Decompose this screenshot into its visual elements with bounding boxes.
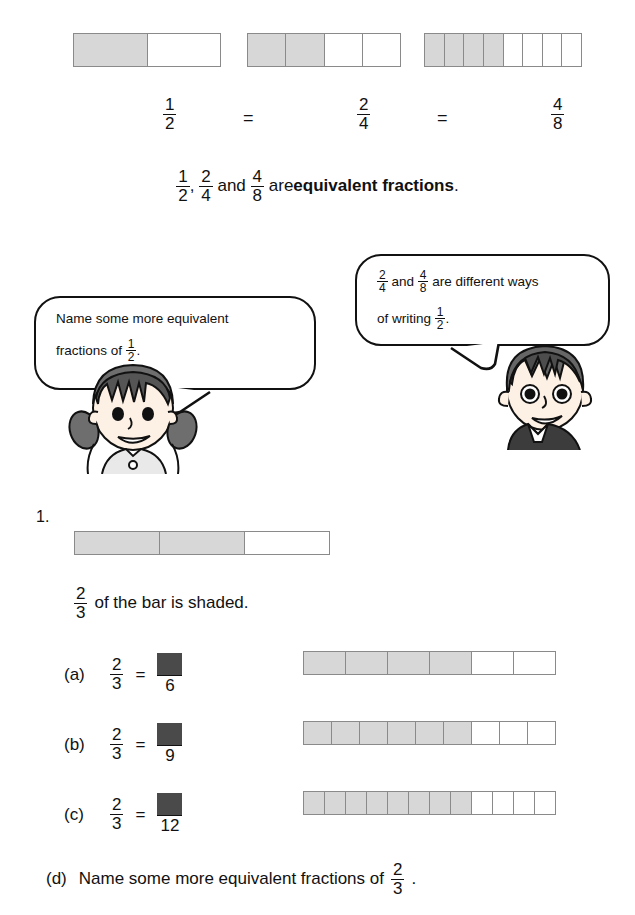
bar-cell-empty: [562, 34, 581, 66]
bar-cell-empty: [472, 722, 500, 744]
bar-cell-shaded: [464, 34, 484, 66]
part-c-fraction-bar: [303, 791, 556, 815]
equals-sign-2: =: [437, 108, 448, 129]
bar-cell-empty: [528, 722, 555, 744]
bar-cell-shaded: [388, 722, 416, 744]
numerator: 2: [74, 585, 87, 603]
caption-fraction-two-thirds: 2 3: [74, 585, 87, 621]
denominator: 4: [377, 281, 388, 294]
worksheet-page: 1 2 = 2 4 = 4 8 1 2 , 2 4 and 4 8 areequ…: [0, 0, 635, 915]
exercise-part-d: (d) Name some more equivalent fractions …: [46, 861, 416, 897]
part-c-left-fraction: 2 3: [110, 796, 123, 832]
bar-cell-shaded: [430, 652, 472, 674]
equation-fraction-one-half: 1 2: [163, 96, 176, 132]
boy-line2-prefix: of writing: [377, 310, 431, 325]
part-a-answer-box[interactable]: [157, 653, 182, 675]
numerator: 2: [199, 168, 212, 186]
part-b-fraction-bar: [303, 721, 556, 745]
equation-fraction-four-eighths: 4 8: [551, 96, 564, 132]
numerator: 1: [176, 168, 189, 186]
statement-and: and: [217, 176, 245, 195]
numerator: 2: [110, 726, 123, 744]
bar-cell-empty: [325, 34, 363, 66]
bar-cell-empty: [493, 792, 514, 814]
numerator: 2: [110, 796, 123, 814]
part-a-fraction-bar: [303, 651, 556, 675]
denominator: 4: [357, 114, 370, 133]
denominator: 8: [551, 114, 564, 133]
boy-and: and: [391, 274, 414, 289]
question-1-caption: 2 3 of the bar is shaded.: [74, 585, 249, 621]
bar-cell-shaded: [484, 34, 504, 66]
question-1-fraction-bar: [74, 531, 330, 555]
numerator: 2: [391, 861, 404, 879]
fraction-bar-two-quarters: [247, 33, 401, 67]
denominator: 2: [435, 318, 446, 331]
girl-line-1: Name some more equivalent: [56, 311, 298, 327]
statement-fraction-1: 1 2: [176, 168, 189, 204]
denominator: 2: [176, 186, 189, 205]
bar-cell-shaded: [367, 792, 388, 814]
denominator: 8: [251, 186, 264, 205]
equivalent-fractions-statement: 1 2 , 2 4 and 4 8 areequivalent fraction…: [0, 168, 635, 204]
exercise-part-b: (b) 2 3 = 9: [64, 723, 182, 766]
speech-bubble-boy: 2 4 and 4 8 are different ways of writin…: [355, 254, 610, 346]
bar-cell-empty: [148, 34, 221, 66]
part-d-suffix: .: [411, 869, 416, 889]
girl-character-icon: [60, 352, 206, 474]
bar-cell-shaded: [248, 34, 286, 66]
part-b-denominator: 9: [157, 745, 182, 766]
bar-cell-empty: [514, 652, 555, 674]
bar-cell-shaded: [416, 722, 444, 744]
bar-cell-empty: [504, 34, 524, 66]
numerator: 1: [163, 96, 176, 114]
top-fraction-bars: [0, 33, 635, 73]
question-number: 1.: [36, 508, 49, 526]
part-b-label: (b): [64, 735, 98, 755]
bar-cell-shaded: [332, 722, 360, 744]
denominator: 8: [418, 281, 429, 294]
part-b-answer-fraction: 9: [157, 723, 182, 766]
numerator: 2: [357, 96, 370, 114]
bar-cell-shaded: [304, 722, 332, 744]
part-d-fraction-two-thirds: 2 3: [391, 861, 404, 897]
part-d-label: (d): [46, 869, 67, 889]
statement-bold-term: equivalent fractions: [293, 176, 454, 195]
bar-cell-empty: [514, 792, 535, 814]
part-c-equals: =: [135, 805, 145, 825]
bar-cell-empty: [543, 34, 563, 66]
boy-line-2: of writing 1 2 .: [377, 306, 594, 332]
part-a-left-fraction: 2 3: [110, 656, 123, 692]
numerator: 1: [126, 338, 137, 350]
part-c-answer-box[interactable]: [157, 793, 182, 815]
bar-cell-empty: [472, 792, 493, 814]
bar-cell-shaded: [430, 792, 451, 814]
bar-cell-shaded: [304, 652, 346, 674]
exercise-part-c: (c) 2 3 = 12: [64, 793, 182, 836]
denominator: 3: [391, 879, 404, 898]
bar-cell-shaded: [346, 792, 367, 814]
statement-fraction-2: 2 4: [199, 168, 212, 204]
part-b-answer-box[interactable]: [157, 723, 182, 745]
fraction-bar-four-eighths: [424, 33, 582, 67]
bar-cell-shaded: [325, 792, 346, 814]
denominator: 3: [110, 674, 123, 693]
part-b-equals: =: [135, 735, 145, 755]
bar-cell-shaded: [409, 792, 430, 814]
bar-cell-shaded: [444, 722, 472, 744]
boy-fraction-one-half: 1 2: [435, 306, 446, 332]
bar-cell-shaded: [74, 34, 148, 66]
boy-line2-suffix: .: [445, 310, 449, 325]
statement-period: .: [454, 176, 459, 195]
boy-fraction-four-eighths: 4 8: [418, 269, 429, 295]
part-a-equals: =: [135, 665, 145, 685]
numerator: 1: [435, 306, 446, 318]
exercise-part-a: (a) 2 3 = 6: [64, 653, 182, 696]
numerator: 4: [551, 96, 564, 114]
bar-cell-shaded: [75, 532, 160, 554]
denominator: 3: [110, 814, 123, 833]
bar-cell-empty: [245, 532, 329, 554]
equivalence-equation-row: 1 2 = 2 4 = 4 8: [0, 96, 635, 142]
denominator: 3: [110, 744, 123, 763]
bar-cell-empty: [523, 34, 543, 66]
